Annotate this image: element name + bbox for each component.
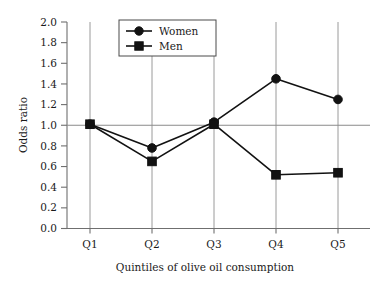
x-tick-label-q3: Q3 [206,238,221,250]
x-tick-label-q4: Q4 [268,238,284,250]
y-tick-label-0.2: 0.2 [40,201,57,213]
y-tick-label-0.0: 0.0 [40,222,57,234]
chart-canvas: 0.00.20.40.60.81.01.21.41.61.82.0 Q1Q2Q3… [0,0,388,286]
legend-label-women: Women [159,25,199,37]
marker-men-q1 [86,120,95,129]
legend: Women Men [119,20,216,56]
marker-women-q2 [148,144,157,153]
x-tick-label-q2: Q2 [144,238,159,250]
legend-marker-circle-women [135,27,143,35]
legend-label-men: Men [159,40,183,52]
marker-men-q3 [210,120,219,129]
marker-men-q5 [334,168,343,177]
y-tick-label-0.6: 0.6 [40,160,57,172]
y-tick-label-1.6: 1.6 [40,57,57,69]
marker-men-q4 [272,171,281,180]
y-axis-title: Odds ratio [17,97,29,153]
y-tick-label-1.0: 1.0 [40,119,57,131]
legend-marker-square-men [135,42,143,50]
odds-ratio-line-chart: 0.00.20.40.60.81.01.21.41.61.82.0 Q1Q2Q3… [0,0,388,286]
x-tick-label-q1: Q1 [82,238,97,250]
x-axis-title: Quintiles of olive oil consumption [116,261,295,273]
y-tick-label-2.0: 2.0 [40,16,57,28]
marker-women-q5 [334,95,343,104]
marker-women-q4 [272,74,281,83]
y-tick-label-1.8: 1.8 [40,36,57,48]
y-tick-label-0.4: 0.4 [40,181,57,193]
y-tick-label-0.8: 0.8 [40,140,57,152]
y-tick-label-1.4: 1.4 [40,78,57,90]
y-tick-label-1.2: 1.2 [40,98,57,110]
x-tick-label-q5: Q5 [330,238,345,250]
marker-men-q2 [148,157,157,166]
